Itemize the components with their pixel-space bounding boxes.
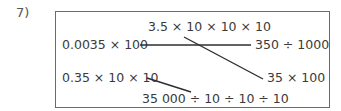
connection-line-2 [184, 37, 263, 79]
connection-lines [0, 0, 341, 111]
connection-line-3 [147, 78, 191, 92]
